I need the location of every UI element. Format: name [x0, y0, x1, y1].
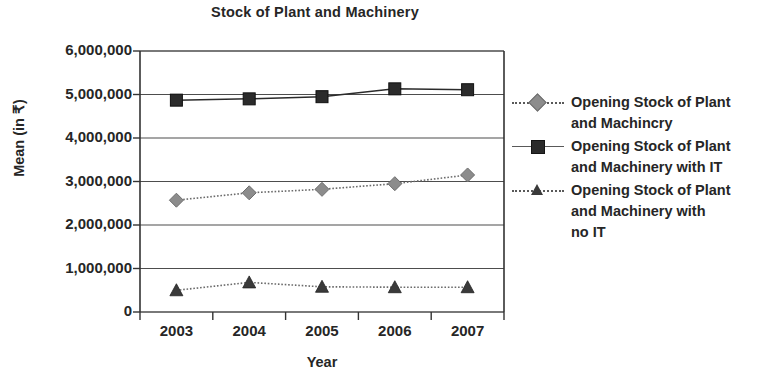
diamond-marker-icon — [528, 93, 546, 111]
legend-entry[interactable]: Opening Stock of Plantand Machinery with… — [512, 180, 762, 243]
data-point-marker — [243, 276, 256, 288]
data-point-marker — [316, 91, 328, 103]
legend-label-line: no IT — [571, 222, 731, 243]
square-marker-icon — [531, 140, 545, 154]
legend-entry[interactable]: Opening Stock of Plantand Machinery with… — [512, 136, 762, 178]
data-point-marker — [169, 193, 183, 207]
legend-label-line: and Machinery with IT — [571, 157, 731, 178]
legend-key — [512, 92, 564, 113]
legend-label-line: and Machinery with — [571, 201, 731, 222]
data-point-marker — [170, 94, 182, 106]
data-point-marker — [461, 168, 475, 182]
legend-label: Opening Stock of Plantand Machinery with… — [571, 136, 731, 178]
triangle-marker-icon — [531, 184, 543, 195]
legend-label: Opening Stock of Plantand Machinery with… — [571, 180, 731, 243]
legend-label: Opening Stock of Plantand Machincry — [571, 92, 731, 134]
data-point-marker — [389, 83, 401, 95]
legend-key — [512, 180, 564, 201]
legend-label-line: Opening Stock of Plant — [571, 92, 731, 113]
legend-key — [512, 136, 564, 157]
chart-legend: Opening Stock of Plantand MachincryOpeni… — [512, 92, 762, 245]
data-point-marker — [315, 182, 329, 196]
chart-figure: Stock of Plant and Machinery Mean (in ₹)… — [0, 0, 767, 383]
legend-label-line: Opening Stock of Plant — [571, 180, 731, 201]
data-point-marker — [462, 84, 474, 96]
data-point-marker — [243, 93, 255, 105]
legend-label-line: and Machincry — [571, 113, 731, 134]
legend-label-line: Opening Stock of Plant — [571, 136, 731, 157]
legend-entry[interactable]: Opening Stock of Plantand Machincry — [512, 92, 762, 134]
data-point-marker — [461, 281, 474, 293]
data-point-marker — [388, 177, 402, 191]
data-point-marker — [242, 186, 256, 200]
